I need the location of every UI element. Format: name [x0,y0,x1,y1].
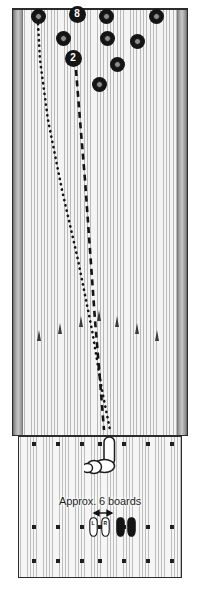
lane-target-arrow [37,330,41,341]
caption-approx-boards: Approx. 6 boards [0,495,200,507]
lane-target-arrow [135,323,139,334]
approach-dot [170,442,173,445]
lane-target-arrow [115,316,119,327]
footprint-label: R [104,521,108,526]
footprint-label: L [92,521,95,526]
approach-dot [56,442,59,445]
bowling-pin: 8 [69,6,86,23]
lane-border [12,8,188,436]
approach-dot [32,525,35,528]
approach-dot [32,442,35,445]
lane-target-arrow [97,310,101,321]
bowling-lane-diagram: 82 Approx. 6 boards LR [0,0,200,589]
approach-dot [122,442,125,445]
pin-number-label: 2 [70,53,76,63]
lane-target-arrow [79,316,83,327]
bowling-pin [130,34,145,49]
bowling-lane [12,8,188,436]
bowling-pin [92,77,107,92]
approach-dot [80,525,83,528]
approach-dot [146,525,149,528]
bowling-pin [100,31,115,46]
approach-dot [170,525,173,528]
bowling-pin: 2 [65,50,82,67]
caption-measure-arrow [0,509,200,517]
approach-dot [98,559,101,562]
approach-dot [32,559,35,562]
bowling-pin [110,57,125,72]
approach-dot [170,559,173,562]
hand-releasing-ball [84,436,120,482]
pin-number-label: 8 [74,9,80,19]
bowling-pin [149,9,164,24]
approach-dot [80,559,83,562]
footprint [127,517,136,537]
approach-dot [56,525,59,528]
footprint [116,517,125,537]
approach-dot [122,559,125,562]
bowling-pin [99,9,114,24]
approach-dot [146,442,149,445]
thumb [84,464,93,473]
bowling-pin [31,9,46,24]
approach-dot [56,559,59,562]
lane-target-arrow [155,330,159,341]
approach-dot [146,559,149,562]
lane-target-arrow [58,323,62,334]
bowling-pin [56,31,71,46]
